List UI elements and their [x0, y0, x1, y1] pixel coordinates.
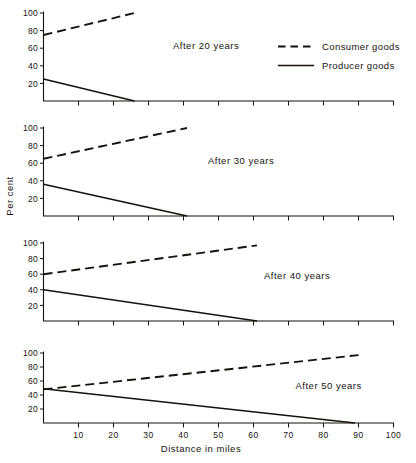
panel-after-40-years: 20406080100After 40 years — [23, 238, 394, 325]
y-tick-label: 40 — [28, 61, 38, 71]
x-axis-title: Distance in miles — [161, 443, 241, 454]
legend-label: Consumer goods — [322, 41, 400, 52]
panel-title: After 50 years — [296, 380, 362, 391]
y-tick-label: 40 — [28, 176, 38, 186]
x-tick-label: 80 — [318, 430, 328, 440]
axis-lines — [44, 127, 394, 216]
y-tick-label: 80 — [28, 26, 38, 36]
x-tick-label: 90 — [353, 430, 363, 440]
y-tick-label: 60 — [28, 158, 38, 168]
y-tick-label: 20 — [28, 194, 38, 204]
x-tick-label: 30 — [143, 430, 153, 440]
y-tick-label: 80 — [28, 362, 38, 372]
x-tick-label: 10 — [73, 430, 83, 440]
series-solid — [44, 389, 356, 423]
y-tick-label: 100 — [23, 8, 38, 18]
x-tick-label: 100 — [386, 430, 401, 440]
series-dashed — [44, 128, 188, 159]
y-tick-label: 100 — [23, 348, 38, 358]
y-tick-label: 20 — [28, 404, 38, 414]
y-tick-label: 40 — [28, 390, 38, 400]
axis-lines — [44, 12, 394, 101]
series-solid — [44, 184, 188, 216]
y-tick-label: 80 — [28, 254, 38, 264]
series-solid — [44, 290, 258, 321]
panel-title: After 30 years — [208, 155, 274, 166]
y-tick-label: 60 — [28, 269, 38, 279]
panel-after-20-years: 20406080100After 20 years — [23, 8, 394, 105]
legend: Consumer goodsProducer goods — [278, 41, 400, 71]
panel-title: After 20 years — [173, 40, 239, 51]
y-tick-label: 100 — [23, 123, 38, 133]
y-tick-label: 100 — [23, 238, 38, 248]
y-tick-label: 20 — [28, 79, 38, 89]
y-tick-label: 40 — [28, 285, 38, 295]
series-dashed — [44, 13, 135, 35]
y-axis-title: Per cent — [4, 176, 15, 215]
panel-title: After 40 years — [264, 270, 330, 281]
x-tick-label: 20 — [108, 430, 118, 440]
series-dashed — [44, 245, 258, 274]
series-solid — [44, 79, 135, 101]
y-tick-label: 20 — [28, 301, 38, 311]
y-tick-label: 60 — [28, 43, 38, 53]
y-tick-label: 60 — [28, 376, 38, 386]
chart-figure: 20406080100After 20 years20406080100Afte… — [0, 0, 416, 463]
axis-lines — [44, 242, 394, 321]
panel-after-30-years: 20406080100After 30 years — [23, 123, 394, 220]
legend-label: Producer goods — [322, 60, 395, 71]
y-tick-label: 80 — [28, 141, 38, 151]
x-tick-label: 40 — [178, 430, 188, 440]
x-tick-label: 50 — [213, 430, 223, 440]
panel-after-50-years: 20406080100102030405060708090100After 50… — [23, 348, 401, 440]
chart-canvas: 20406080100After 20 years20406080100Afte… — [0, 0, 416, 463]
x-tick-label: 70 — [283, 430, 293, 440]
x-tick-label: 60 — [248, 430, 258, 440]
